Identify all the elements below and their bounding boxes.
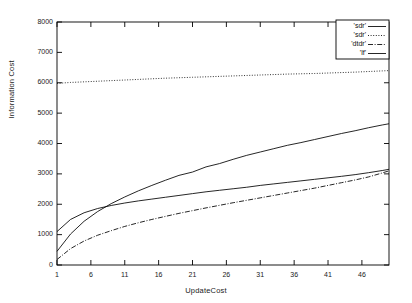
series-line <box>57 71 389 84</box>
legend-item-label: 'dtdr' <box>351 40 366 47</box>
legend-item: 'dtdr' <box>336 40 366 49</box>
legend-item: 'sdr' <box>336 22 366 31</box>
data-series-group <box>57 71 389 260</box>
legend-item-label: 'sdr' <box>354 22 366 29</box>
series-line <box>57 171 389 260</box>
legend-item-label: 'sdr' <box>354 31 366 38</box>
series-line <box>57 169 389 231</box>
legend-item-label: 'lf' <box>360 49 366 56</box>
legend-item: 'sdr' <box>336 31 366 40</box>
legend-item: 'lf' <box>336 49 366 58</box>
line-chart: Information Cost UpdateCost 010002000300… <box>0 0 412 303</box>
